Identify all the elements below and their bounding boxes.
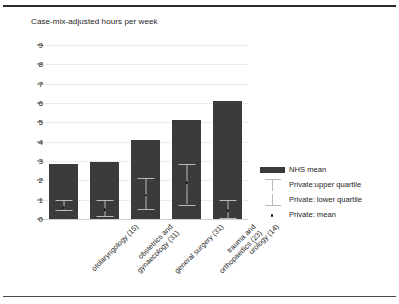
private-mean-dot: [62, 206, 65, 209]
legend: NHS meanPrivate:upper quartilePrivate: l…: [258, 163, 394, 223]
lower-quartile-icon: [272, 194, 273, 206]
legend-item: Private:upper quartile: [258, 178, 394, 193]
gridline: [43, 219, 248, 221]
legend-item: NHS mean: [258, 163, 394, 178]
legend-label: NHS mean: [289, 165, 326, 174]
figure: Case-mix-adjusted hours per week 0123456…: [0, 0, 399, 304]
bar-group: [172, 45, 201, 219]
lower-quartile-cap: [55, 210, 72, 211]
upper-quartile-cap: [55, 200, 72, 201]
plot-area: [43, 45, 248, 219]
bottom-rule: [3, 296, 396, 297]
upper-quartile-cap: [96, 200, 113, 201]
upper-quartile-icon: [272, 179, 273, 191]
private-mean-dot: [103, 208, 106, 211]
lower-quartile-cap: [137, 209, 154, 210]
lower-quartile-cap: [219, 218, 236, 219]
legend-label: Private:upper quartile: [289, 180, 361, 189]
legend-item: Private: mean: [258, 208, 394, 223]
error-bar: [186, 164, 187, 205]
legend-label: Private: mean: [289, 210, 336, 219]
mean-dot-icon: [271, 214, 274, 217]
bar-group: [49, 45, 78, 219]
y-axis-tick-labels: 0123456789: [14, 45, 43, 219]
upper-quartile-cap: [178, 164, 195, 165]
legend-item: Private: lower quartile: [258, 193, 394, 208]
private-mean-dot: [144, 194, 147, 197]
upper-quartile-cap: [137, 178, 154, 179]
upper-quartile-cap: [219, 200, 236, 201]
bar-group: [90, 45, 119, 219]
nhs-mean-swatch-icon: [260, 167, 285, 173]
top-rule: [3, 5, 396, 7]
chart-title: Case-mix-adjusted hours per week: [31, 17, 158, 26]
lower-quartile-cap: [96, 216, 113, 217]
private-mean-dot: [226, 209, 229, 212]
legend-label: Private: lower quartile: [289, 195, 362, 204]
private-mean-dot: [185, 181, 188, 184]
bar-group: [131, 45, 160, 219]
lower-quartile-cap: [178, 205, 195, 206]
bar-group: [213, 45, 242, 219]
